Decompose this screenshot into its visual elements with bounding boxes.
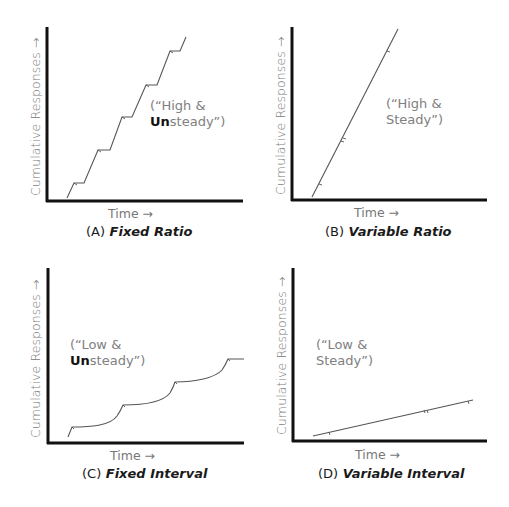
panel-c-caption-letter: (C)	[82, 466, 101, 481]
panel-b-reinforcement-marks	[319, 51, 390, 185]
panel-d-caption-letter: (D)	[318, 466, 338, 481]
panel-d-caption-title: Variable Interval	[343, 466, 465, 481]
panel-d-caption: (D) Variable Interval	[318, 466, 465, 481]
panel-c-y-axis-label: Cumulative Responses →	[28, 279, 43, 438]
panel-b-annotation-line1: (“High &	[386, 96, 443, 112]
schedule-plots	[0, 0, 509, 507]
panel-a-annotation-line1: (“High &	[150, 98, 225, 114]
panel-a-annotation: (“High & Unsteady”)	[150, 98, 225, 130]
panel-c-annotation-emphasis: Un	[70, 353, 90, 368]
panel-d-curve	[313, 400, 473, 436]
panel-b-annotation-line2: Steady”)	[386, 112, 443, 128]
panel-b-x-axis-label: Time →	[354, 205, 399, 220]
panel-a-caption-letter: (A)	[86, 224, 105, 239]
panel-a-caption-title: Fixed Ratio	[110, 224, 193, 239]
panel-c-reinforcement-marks	[72, 359, 230, 429]
panel-c-annotation: (“Low & Unsteady”)	[70, 337, 145, 369]
panel-b-annotation: (“High & Steady”)	[386, 96, 443, 128]
panel-a-caption: (A) Fixed Ratio	[86, 224, 192, 239]
panel-c-curve	[68, 359, 244, 437]
panel-c-caption: (C) Fixed Interval	[82, 466, 207, 481]
panel-b-caption: (B) Variable Ratio	[325, 224, 452, 239]
panel-a-annotation-rest: steady”)	[170, 114, 226, 129]
panel-b-caption-title: Variable Ratio	[349, 224, 452, 239]
panel-c-x-axis-label: Time →	[110, 448, 155, 463]
panel-c-annotation-line2: Unsteady”)	[70, 353, 145, 369]
panel-d-x-axis-label: Time →	[355, 447, 400, 462]
panel-d-annotation-rest: Steady”)	[316, 353, 373, 368]
panel-c-annotation-rest: steady”)	[90, 353, 146, 368]
panel-b-y-axis-label: Cumulative Responses →	[273, 36, 288, 195]
panel-d-annotation: (“Low & Steady”)	[316, 337, 373, 369]
panel-d-annotation-line2: Steady”)	[316, 353, 373, 369]
panel-a-x-axis-label: Time →	[108, 206, 153, 221]
panel-c-annotation-line1: (“Low &	[70, 337, 145, 353]
panel-a-y-axis-label: Cumulative Responses →	[28, 37, 43, 196]
panel-b-annotation-rest: Steady”)	[386, 112, 443, 127]
panel-c-caption-title: Fixed Interval	[106, 466, 208, 481]
panel-d-annotation-line1: (“Low &	[316, 337, 373, 353]
panel-a-annotation-emphasis: Un	[150, 114, 170, 129]
panel-a-annotation-line2: Unsteady”)	[150, 114, 225, 130]
panel-b-caption-letter: (B)	[325, 224, 344, 239]
panel-d-y-axis-label: Cumulative Responses →	[274, 276, 289, 435]
